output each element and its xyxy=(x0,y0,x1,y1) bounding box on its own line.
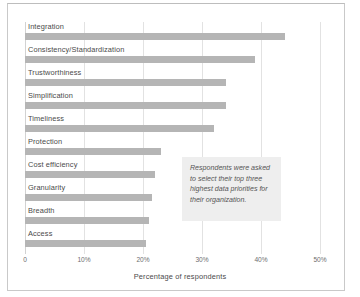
bar xyxy=(25,148,161,155)
annotation-text: Respondents were asked to select their t… xyxy=(190,163,274,205)
category-label: Access xyxy=(28,229,52,239)
bar-row: Simplification xyxy=(25,91,320,114)
x-tick-label: 10% xyxy=(77,256,90,263)
bar-row: Consistency/Standardization xyxy=(25,45,320,68)
x-axis-ticks: 010%20%30%40%50% xyxy=(25,254,320,268)
bar-row: Access xyxy=(25,229,320,252)
bar xyxy=(25,171,155,178)
category-label: Timeliness xyxy=(28,114,64,124)
x-tick-label: 40% xyxy=(254,256,267,263)
bar xyxy=(25,33,285,40)
category-label: Granularity xyxy=(28,183,65,193)
category-label: Protection xyxy=(28,137,62,147)
bar-row: Trustworthiness xyxy=(25,68,320,91)
bar xyxy=(25,79,226,86)
x-tick-label: 0 xyxy=(23,256,27,263)
bar xyxy=(25,125,214,132)
x-axis-title: Percentage of respondents xyxy=(0,272,360,281)
bar-row: Timeliness xyxy=(25,114,320,137)
category-label: Cost efficiency xyxy=(28,160,77,170)
bar xyxy=(25,240,146,247)
gridline-50 xyxy=(320,22,321,254)
chart-figure: IntegrationConsistency/StandardizationTr… xyxy=(0,0,360,297)
bar xyxy=(25,56,255,63)
category-label: Trustworthiness xyxy=(28,68,81,78)
x-tick-label: 50% xyxy=(313,256,326,263)
bar xyxy=(25,194,152,201)
category-label: Consistency/Standardization xyxy=(28,45,124,55)
x-tick-label: 30% xyxy=(195,256,208,263)
category-label: Breadth xyxy=(28,206,55,216)
bar xyxy=(25,102,226,109)
category-label: Simplification xyxy=(28,91,73,101)
category-label: Integration xyxy=(28,22,64,32)
bar-row: Integration xyxy=(25,22,320,45)
annotation-box: Respondents were asked to select their t… xyxy=(182,157,281,221)
bar xyxy=(25,217,149,224)
x-tick-label: 20% xyxy=(136,256,149,263)
